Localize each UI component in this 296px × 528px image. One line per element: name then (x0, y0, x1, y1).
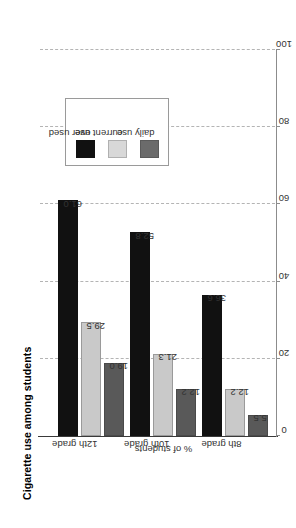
chart-figure: Cigarette use among students 0 20 40 60 (12, 0, 296, 528)
value-label-grade12-ever-used: 61.0 (64, 199, 83, 210)
legend-swatch-current-use-icon (108, 140, 127, 158)
group-label-grade12: 12th grade (52, 439, 97, 450)
category-axis-line (38, 436, 278, 437)
tick-label-100: 100 (276, 39, 292, 50)
value-label-grade8-ever-used: 36.6 (208, 293, 227, 304)
value-label-grade10-current-use: 21.3 (159, 352, 178, 363)
value-label-grade12-current-use: 29.5 (87, 321, 106, 332)
bar-grade10-current-use[interactable] (153, 354, 173, 436)
bar-grade12-current-use[interactable] (81, 322, 101, 436)
legend-label-daily-use: daily use (117, 128, 155, 139)
legend-swatch-daily-use-icon (140, 140, 159, 158)
bar-grade8-ever-used[interactable] (202, 295, 222, 436)
value-label-grade10-ever-used: 52.8 (136, 231, 155, 242)
bar-grade12-daily-use[interactable] (104, 363, 124, 436)
legend-item-daily-use[interactable]: daily use (134, 99, 164, 165)
tick-label-60: 60 (279, 193, 290, 204)
group-label-grade8: 8th grade (201, 439, 241, 450)
tick-label-40: 40 (279, 271, 290, 282)
value-label-grade8-daily-use: 5.5 (254, 413, 267, 424)
tick-mark-0 (276, 435, 280, 436)
chart-legend: ever used current use daily use (65, 98, 169, 166)
value-label-grade10-daily-use: 12.2 (182, 387, 201, 398)
gridline-100 (40, 49, 275, 50)
rotated-figure-stage: Cigarette use among students 0 20 40 60 (12, 0, 296, 528)
value-label-grade8-current-use: 12.2 (231, 387, 250, 398)
chart-title: Cigarette use among students (21, 347, 33, 500)
bar-grade10-ever-used[interactable] (130, 232, 150, 436)
value-axis-title: % of students (135, 444, 193, 455)
value-axis-line (276, 49, 277, 437)
tick-label-0: 0 (281, 425, 286, 436)
tick-label-20: 20 (279, 348, 290, 359)
bar-grade12-ever-used[interactable] (58, 201, 78, 437)
legend-label-current-use: current use (75, 128, 123, 139)
legend-swatch-ever-used-icon (76, 140, 95, 158)
value-label-grade12-daily-use: 19.0 (110, 361, 129, 372)
tick-label-80: 80 (279, 116, 290, 127)
